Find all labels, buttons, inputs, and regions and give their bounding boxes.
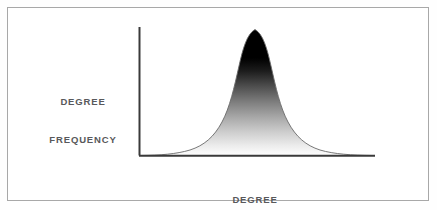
x-axis-label-line-1: DEGREE: [205, 194, 305, 207]
figure-root: DEGREE FREQUENCY DEGREE VALUE: [0, 0, 437, 210]
y-axis-label-line-1: DEGREE: [36, 96, 130, 109]
x-axis-label: DEGREE VALUE: [205, 169, 305, 210]
plot-area: DEGREE FREQUENCY DEGREE VALUE: [0, 0, 437, 210]
y-axis-label-line-2: FREQUENCY: [36, 134, 130, 147]
distribution-curve-fill: [141, 30, 372, 156]
y-axis-label: DEGREE FREQUENCY: [36, 71, 130, 171]
